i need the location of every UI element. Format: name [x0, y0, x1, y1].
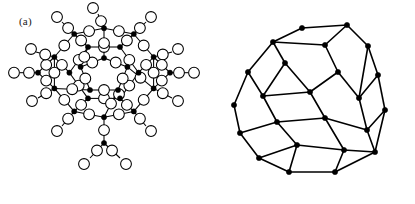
- o-atom: [63, 113, 74, 124]
- o-atom: [106, 98, 117, 109]
- o-atom: [84, 26, 95, 37]
- o-atom-terminal: [9, 67, 20, 78]
- o-atom: [57, 60, 68, 71]
- t-atom: [167, 70, 172, 75]
- t-atom: [131, 31, 136, 36]
- o-atom: [41, 88, 52, 99]
- t-atom: [85, 44, 90, 49]
- cage-vertex: [322, 42, 327, 47]
- t-atom: [35, 70, 40, 75]
- o-atom: [138, 40, 149, 51]
- cage-vertex: [364, 127, 369, 132]
- cage-vertex: [307, 89, 312, 94]
- o-atom: [63, 23, 74, 34]
- o-atom: [41, 60, 52, 71]
- o-atom: [99, 125, 110, 136]
- cage-vertex: [282, 60, 287, 65]
- cage-vertex: [372, 149, 377, 154]
- o-atom: [110, 57, 121, 68]
- o-atom: [79, 52, 90, 63]
- t-atom: [85, 96, 90, 101]
- o-atom: [156, 60, 167, 71]
- o-atom: [157, 88, 168, 99]
- cage-vertex: [245, 69, 250, 74]
- o-atom: [40, 49, 51, 60]
- cage-vertex: [382, 107, 387, 112]
- cage-vertex: [231, 102, 236, 107]
- o-atom: [117, 73, 128, 84]
- t-atom: [136, 70, 141, 75]
- o-atom: [24, 67, 35, 78]
- t-atom: [72, 109, 77, 114]
- t-atom: [52, 54, 57, 59]
- t-atom: [87, 87, 92, 92]
- o-atom-terminal: [121, 159, 132, 170]
- panel-a: (a): [0, 0, 208, 204]
- o-atom: [138, 95, 149, 106]
- t-atom: [101, 26, 106, 31]
- cage-vertex: [270, 39, 275, 44]
- o-atom: [114, 109, 125, 120]
- t-atom: [117, 44, 122, 49]
- o-atom: [122, 100, 133, 111]
- cage-vertex: [294, 142, 299, 147]
- o-atom: [80, 73, 91, 84]
- o-atom: [59, 95, 70, 106]
- t-atom: [72, 31, 77, 36]
- cage-vertex: [237, 130, 242, 135]
- panel-b: (b): [207, 0, 415, 204]
- o-atom: [135, 23, 146, 34]
- t-atom: [52, 86, 57, 91]
- o-atom: [99, 85, 110, 96]
- o-atom: [96, 16, 107, 27]
- cage-vertex: [256, 155, 261, 160]
- t-atom: [78, 64, 83, 69]
- t-atom: [131, 109, 136, 114]
- panel-a-structure: [0, 0, 208, 204]
- cage-vertex: [356, 95, 361, 100]
- o-atom: [114, 26, 125, 37]
- panel-b-polyhedron: [207, 0, 415, 204]
- o-atom-terminal: [173, 44, 184, 55]
- o-atom-terminal: [26, 44, 37, 55]
- polyhedron-edge-group: [234, 25, 385, 172]
- cage-vertex: [365, 43, 370, 48]
- cage-vertex: [260, 93, 265, 98]
- t-atom: [101, 55, 106, 60]
- o-atom: [135, 113, 146, 124]
- cage-vertex: [286, 169, 291, 174]
- o-atom-terminal: [189, 67, 200, 78]
- o-atom: [67, 84, 78, 95]
- t-atom: [67, 70, 72, 75]
- cage-vertex: [375, 72, 380, 77]
- t-atom: [101, 115, 106, 120]
- o-atom: [59, 40, 70, 51]
- o-atom: [84, 109, 95, 120]
- o-atom: [141, 60, 152, 71]
- t-atom: [125, 64, 130, 69]
- cage-vertex: [335, 69, 340, 74]
- cage-vertex: [322, 115, 327, 120]
- o-atom-terminal: [79, 159, 90, 170]
- t-atom: [151, 86, 156, 91]
- o-atom-terminal: [88, 3, 99, 14]
- o-atom: [122, 35, 133, 46]
- o-atom-terminal: [52, 126, 63, 137]
- o-atom: [99, 38, 110, 49]
- o-atom: [41, 75, 52, 86]
- o-atom: [156, 75, 167, 86]
- cage-vertex: [341, 147, 346, 152]
- t-atom: [151, 54, 156, 59]
- t-atom: [117, 96, 122, 101]
- o-atom: [76, 100, 87, 111]
- cage-vertex: [332, 169, 337, 174]
- t-atom: [101, 140, 106, 145]
- o-atom: [124, 55, 135, 66]
- figure-root: (a): [0, 0, 415, 204]
- cage-vertex: [344, 22, 349, 27]
- cage-vertex: [274, 119, 279, 124]
- o-atom-terminal: [146, 12, 157, 23]
- o-atom: [92, 145, 103, 156]
- o-atom-terminal: [27, 96, 38, 107]
- o-atom: [157, 49, 168, 60]
